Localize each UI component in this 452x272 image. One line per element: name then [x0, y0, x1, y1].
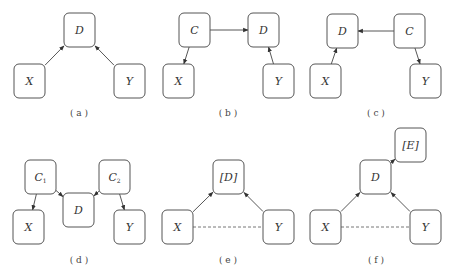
- panel-caption-e: ( e ): [219, 255, 237, 265]
- arrow-edge-y-to-d: [244, 193, 263, 212]
- node-label: D: [73, 204, 83, 217]
- node-label: X: [321, 221, 331, 234]
- node-b-x: X: [163, 64, 194, 98]
- panel-caption-f: ( f ): [368, 255, 384, 265]
- node-e-x: X: [162, 210, 193, 244]
- arrow-edge-c-to-x: [184, 47, 189, 64]
- arrow-edge-y-to-d: [391, 193, 410, 212]
- node-b-y: Y: [263, 64, 294, 98]
- node-c-x: X: [310, 64, 341, 98]
- node-label: X: [321, 75, 331, 88]
- node-label: X: [24, 221, 34, 234]
- node-a-x: X: [14, 64, 45, 98]
- arrow-edge-x-to-d: [331, 48, 336, 64]
- arrow-edge-x-to-d: [341, 193, 360, 212]
- node-c-y: Y: [410, 64, 441, 98]
- arrow-edge-x-to-d: [45, 46, 64, 65]
- node-d-d: D: [63, 193, 94, 227]
- node-label: X: [25, 75, 35, 88]
- node-f-x: X: [310, 210, 341, 244]
- node-label: C: [405, 25, 414, 38]
- node-b-c: C: [179, 13, 210, 47]
- panel-caption-c: ( c ): [367, 108, 385, 118]
- panel-caption-a: ( a ): [70, 108, 88, 118]
- node-e-y: Y: [263, 210, 294, 244]
- node-subscript: 2: [117, 177, 121, 184]
- node-f-e: [E]: [395, 128, 426, 162]
- node-f-y: Y: [410, 210, 441, 244]
- node-label: X: [174, 75, 184, 88]
- node-label: D: [258, 24, 268, 37]
- node-d-c1: C1: [25, 160, 56, 194]
- causal-diagram-figure: DXYCDXYDCXYC1C2DXY[D]XY[E]DXY ( a )( b )…: [0, 0, 452, 272]
- node-label: C: [190, 24, 199, 37]
- arrow-edge-x-to-d: [193, 192, 213, 212]
- node-f-d: D: [360, 160, 391, 194]
- node-label: D: [337, 25, 347, 38]
- arrow-edge-c1-to-d: [56, 190, 63, 196]
- node-c-c: C: [394, 14, 425, 48]
- panel-caption-b: ( b ): [219, 108, 238, 118]
- node-d-c2: C2: [99, 160, 130, 194]
- node-a-d: D: [64, 13, 95, 47]
- node-a-y: Y: [114, 64, 145, 98]
- node-d-y: Y: [114, 210, 145, 244]
- arrow-edge-c2-to-d: [94, 191, 99, 196]
- node-d-x: X: [13, 210, 44, 244]
- node-subscript: 1: [43, 177, 47, 184]
- node-label: D: [74, 24, 84, 37]
- arrow-edge-y-to-d: [269, 47, 274, 64]
- node-label: [D]: [220, 171, 238, 184]
- arrow-edge-c-to-y: [415, 48, 420, 64]
- node-e-d: [D]: [213, 160, 244, 194]
- node-label: [E]: [402, 139, 419, 152]
- node-c-d: D: [327, 14, 358, 48]
- node-label: X: [173, 221, 183, 234]
- node-b-d: D: [248, 13, 279, 47]
- arrow-edge-c2-to-y: [120, 194, 125, 210]
- arrow-edge-d-to-e: [391, 159, 395, 163]
- arrow-edge-c1-to-x: [33, 194, 37, 210]
- panel-caption-d: ( d ): [70, 255, 89, 265]
- node-label: D: [370, 171, 380, 184]
- arrow-edge-y-to-d: [95, 46, 114, 65]
